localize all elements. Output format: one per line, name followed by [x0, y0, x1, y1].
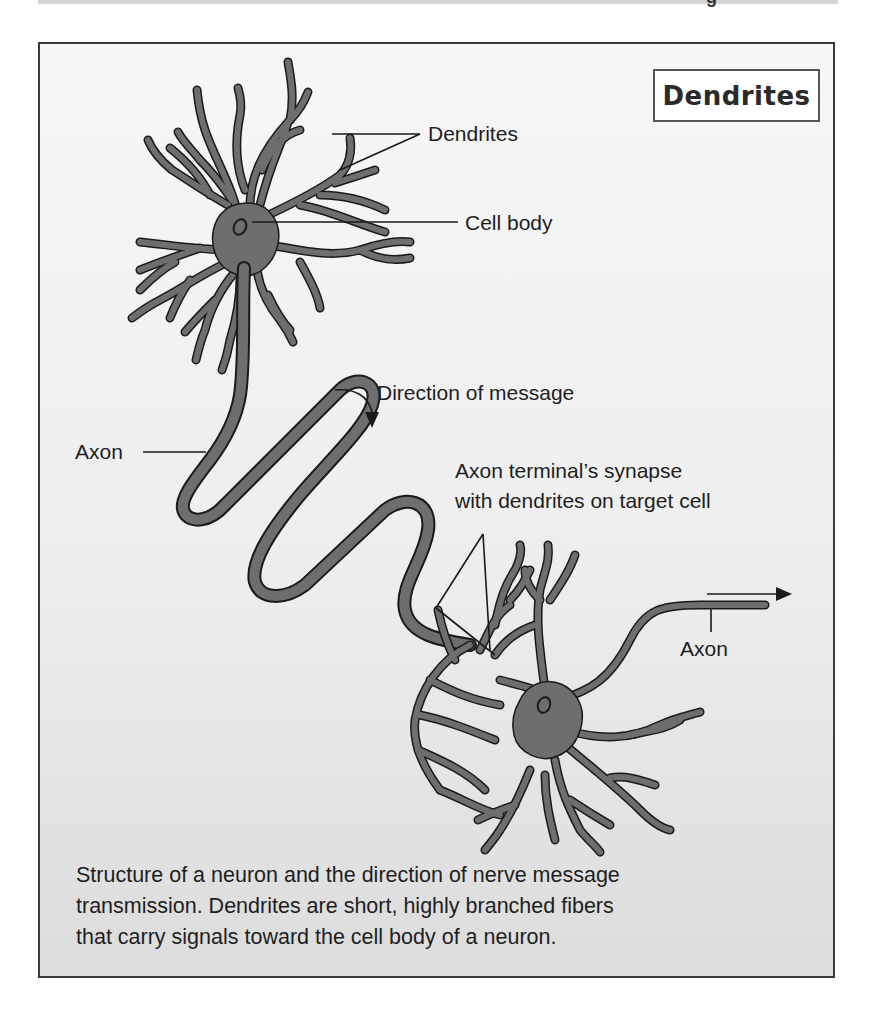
- label-synapse-line1: Axon terminal’s synapse: [455, 458, 682, 484]
- label-axon-right: Axon: [680, 636, 728, 662]
- caption-line-1: Structure of a neuron and the direction …: [76, 860, 816, 891]
- label-synapse-line2: with dendrites on target cell: [455, 488, 711, 514]
- upper-neuron: [132, 62, 410, 370]
- label-dendrites: Dendrites: [428, 121, 518, 147]
- label-direction-of-message: Direction of message: [377, 380, 574, 406]
- figure-caption: Structure of a neuron and the direction …: [76, 860, 816, 953]
- title-box: Dendrites: [653, 69, 820, 122]
- label-cell-body: Cell body: [465, 210, 553, 236]
- label-axon-left: Axon: [75, 439, 123, 465]
- lower-neuron: [415, 545, 765, 852]
- arrowhead-right: [776, 587, 792, 601]
- figure-title: Dendrites: [662, 81, 810, 111]
- axon: [183, 268, 470, 645]
- caption-line-3: that carry signals toward the cell body …: [76, 922, 816, 953]
- caption-line-2: transmission. Dendrites are short, highl…: [76, 891, 816, 922]
